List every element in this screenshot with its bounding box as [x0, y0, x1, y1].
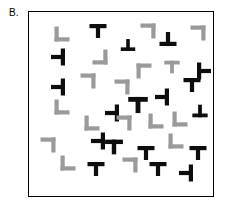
stimulus-l-shape: [187, 22, 209, 44]
stimulus-t-shape: [162, 57, 182, 77]
stimulus-l-shape: [37, 134, 59, 156]
stimulus-l-shape: [119, 154, 141, 176]
stimulus-t-shape: [151, 86, 173, 108]
stimulus-l-shape: [51, 96, 73, 118]
stimulus-l-shape: [89, 46, 111, 68]
stimulus-l-shape: [57, 152, 79, 174]
stimulus-l-shape: [77, 70, 99, 92]
stimulus-t-shape: [175, 162, 197, 184]
stimulus-t-shape: [181, 74, 203, 96]
panel-label: B.: [9, 8, 19, 18]
stimulus-t-shape: [85, 158, 107, 180]
stimulus-t-shape: [187, 142, 209, 164]
stimulus-frame: [28, 11, 214, 197]
stimulus-t-shape: [47, 46, 69, 68]
stimulus-t-shape: [87, 20, 109, 42]
stimulus-l-shape: [51, 23, 73, 45]
stimulus-t-shape: [119, 36, 138, 55]
figure-panel: B.: [0, 0, 225, 208]
stimulus-l-shape: [113, 112, 135, 134]
stimulus-t-shape: [147, 158, 169, 180]
stimulus-l-shape: [145, 110, 167, 132]
stimulus-l-shape: [137, 20, 159, 42]
stimulus-l-shape: [133, 60, 155, 82]
stimulus-t-shape: [47, 76, 69, 98]
stimulus-l-shape: [169, 108, 191, 130]
stimulus-l-shape: [165, 130, 187, 152]
stimulus-t-shape: [157, 28, 179, 50]
stimulus-t-shape: [190, 101, 210, 121]
